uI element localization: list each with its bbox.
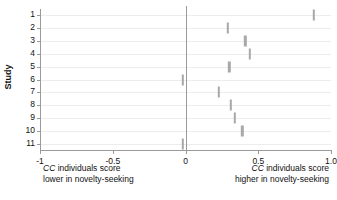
y-tick-label: 10 [26,125,35,136]
y-tick-mark [37,92,40,93]
x-tick-mark [258,150,259,154]
x-tick-mark [113,150,114,154]
caption-left-line2: lower in novelty-seeking [43,174,134,185]
y-tick-mark [37,80,40,81]
caption-right-gene: CC [252,163,264,173]
caption-left-line1-text: individuals score [55,163,120,173]
study-marker-5 [228,61,230,72]
y-tick-mark [37,28,40,29]
y-axis-title: Study [3,47,13,107]
y-tick-label: 5 [30,61,35,72]
plot-area: 1234567891011 -1-0.500.51.0 [40,9,331,150]
y-tick-label: 6 [30,74,35,85]
x-tick-mark [331,150,332,154]
study-marker-4 [248,48,250,59]
y-tick-mark [37,144,40,145]
x-tick-label: 0 [183,156,188,166]
y-tick-label: 3 [30,35,35,46]
caption-right-line2: higher in novelty-seeking [235,174,329,185]
y-tick-label: 7 [30,86,35,97]
x-tick-mark [40,150,41,154]
zero-reference-line [186,6,187,151]
caption-right-line1-text: individuals score [264,163,329,173]
study-marker-10 [241,125,243,136]
caption-left-gene: CC [43,163,55,173]
y-tick-label: 8 [30,99,35,110]
caption-left: CC individuals score lower in novelty-se… [43,163,134,185]
y-tick-mark [37,131,40,132]
y-tick-label: 2 [30,22,35,33]
y-tick-label: 11 [26,138,35,149]
y-tick-mark [37,105,40,106]
y-tick-mark [37,15,40,16]
y-tick-mark [37,67,40,68]
study-marker-6 [181,74,183,85]
caption-right-line1: CC individuals score [235,163,329,174]
y-tick-mark [37,54,40,55]
study-marker-11 [181,138,183,149]
y-tick-mark [37,118,40,119]
study-marker-8 [229,100,231,111]
y-tick-label: 4 [30,48,35,59]
caption-right: CC individuals score higher in novelty-s… [235,163,329,185]
study-marker-3 [244,36,246,47]
study-marker-9 [234,113,236,124]
caption-left-line1: CC individuals score [43,163,134,174]
study-marker-1 [312,10,314,21]
study-marker-7 [218,87,220,98]
study-marker-2 [226,23,228,34]
x-tick-mark [186,150,187,154]
y-tick-mark [37,41,40,42]
y-tick-label: 9 [30,112,35,123]
y-tick-label: 1 [30,9,35,20]
